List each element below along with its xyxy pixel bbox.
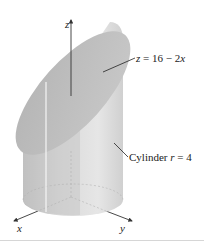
cylinder-plane-diagram: z x y z = 16 − 2x Cylinder r = 4 (0, 0, 204, 246)
y-axis-label: y (119, 222, 125, 234)
cylinder-label: Cylinder r = 4 (129, 151, 192, 163)
bottom-divider (0, 240, 204, 241)
plane-equation-label: z = 16 − 2x (135, 52, 185, 64)
x-axis-label: x (16, 222, 22, 234)
x-axis (14, 211, 38, 221)
z-axis-label: z (64, 18, 70, 30)
y-axis (106, 211, 132, 221)
